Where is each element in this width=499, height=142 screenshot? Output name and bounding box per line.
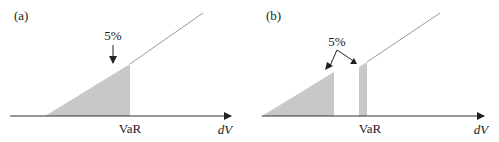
panel-a-distribution-line — [130, 13, 203, 64]
panel-b-arrowhead-left — [325, 62, 333, 70]
panel-a: (a) 5% VaR dV — [10, 8, 234, 137]
panel-b-distribution-line — [367, 13, 440, 62]
panel-b-percent-arrows — [329, 50, 355, 68]
panel-b-percent-label: 5% — [328, 34, 346, 49]
panel-a-var-label: VaR — [119, 121, 142, 136]
panel-b: (b) 5% VaR dV — [262, 8, 490, 137]
panel-a-percent-label: 5% — [104, 28, 122, 43]
panel-b-tail-shade — [262, 72, 334, 116]
panel-b-dv-label: dV — [474, 122, 491, 137]
panel-b-label: (b) — [266, 8, 281, 23]
panel-a-tail-shade — [45, 64, 130, 116]
panel-b-var-shade — [359, 62, 367, 116]
panel-b-var-label: VaR — [359, 121, 382, 136]
panel-a-label: (a) — [14, 8, 28, 23]
var-diagram: (a) 5% VaR dV (b) 5% VaR dV — [0, 0, 499, 142]
panel-a-dv-label: dV — [218, 122, 235, 137]
